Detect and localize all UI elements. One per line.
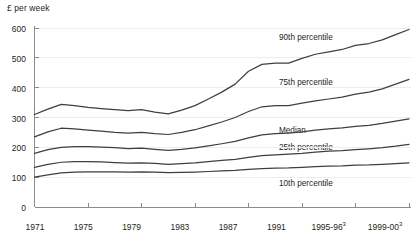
series-lines bbox=[35, 29, 410, 177]
gridlines bbox=[35, 28, 412, 177]
chart-container: £ per week 600 500 400 300 200 100 0 197… bbox=[0, 0, 420, 247]
series-line-90th-percentile bbox=[35, 29, 410, 114]
plot-area bbox=[0, 0, 420, 247]
axis-lines bbox=[35, 26, 412, 207]
series-line-median bbox=[35, 119, 410, 153]
series-line-10th-percentile bbox=[35, 163, 410, 177]
